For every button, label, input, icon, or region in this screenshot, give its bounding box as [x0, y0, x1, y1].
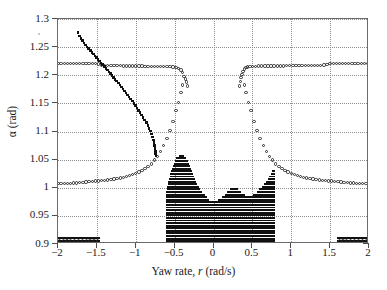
marker-square — [359, 237, 361, 239]
marker-open-circle — [94, 62, 97, 65]
marker-square — [257, 235, 259, 237]
marker-square — [220, 204, 222, 206]
marker-square — [185, 235, 187, 237]
marker-square — [366, 240, 368, 242]
marker-square — [207, 214, 209, 216]
marker-square — [199, 240, 201, 242]
gridline-vertical — [291, 19, 292, 242]
marker-square — [80, 240, 82, 242]
marker-square — [268, 204, 270, 206]
marker-square — [234, 209, 236, 211]
marker-square — [168, 191, 170, 193]
marker-square — [224, 238, 226, 240]
marker-square — [187, 181, 189, 183]
marker-square — [229, 220, 231, 222]
marker-open-circle — [341, 62, 344, 65]
marker-square — [220, 214, 222, 216]
marker-square — [191, 176, 193, 178]
marker-square — [188, 183, 190, 185]
marker-square — [78, 240, 80, 242]
marker-square — [257, 214, 259, 216]
marker-square — [209, 230, 211, 232]
marker-square — [185, 168, 187, 170]
marker-square — [180, 207, 182, 209]
marker-square — [218, 225, 220, 227]
marker-open-circle — [310, 64, 313, 67]
marker-square — [259, 209, 261, 211]
marker-square — [234, 220, 236, 222]
marker-square — [187, 173, 189, 175]
marker-square — [248, 214, 250, 216]
marker-square — [273, 188, 275, 190]
marker-square — [180, 170, 182, 172]
marker-square — [222, 217, 224, 219]
marker-square — [258, 204, 260, 206]
marker-square — [57, 242, 59, 243]
marker-square — [96, 237, 98, 239]
marker-square — [175, 196, 177, 198]
marker-open-circle — [285, 64, 288, 67]
marker-open-circle — [325, 63, 328, 66]
marker-square — [197, 186, 199, 188]
marker-square — [271, 240, 273, 242]
marker-square — [356, 240, 358, 242]
marker-square — [189, 204, 191, 206]
marker-square — [227, 209, 229, 211]
marker-square — [194, 201, 196, 203]
marker-square — [181, 168, 183, 170]
marker-square — [207, 201, 209, 203]
marker-square — [272, 217, 274, 219]
marker-square — [183, 209, 185, 211]
marker-square — [265, 186, 267, 188]
marker-square — [225, 217, 227, 219]
marker-square — [222, 201, 224, 203]
marker-square — [175, 230, 177, 232]
marker-square — [251, 238, 253, 240]
marker-square — [273, 181, 275, 183]
marker-square — [241, 238, 243, 240]
marker-square — [262, 199, 264, 201]
marker-square — [186, 204, 188, 206]
marker-square — [168, 230, 170, 232]
marker-square — [183, 220, 185, 222]
marker-open-circle — [165, 137, 168, 140]
marker-square — [186, 194, 188, 196]
marker-square — [231, 191, 233, 193]
marker-square — [192, 188, 194, 190]
marker-square — [219, 204, 221, 206]
marker-square — [168, 199, 170, 201]
marker-square — [183, 163, 185, 165]
marker-square — [80, 242, 82, 243]
marker-open-circle — [346, 181, 349, 184]
marker-square — [183, 222, 185, 224]
marker-square — [203, 212, 205, 214]
marker-square — [235, 214, 237, 216]
marker-square — [173, 240, 175, 242]
marker-square — [272, 214, 274, 216]
marker-square — [250, 201, 252, 203]
marker-square — [220, 212, 222, 214]
marker-square — [257, 209, 259, 211]
marker-square — [76, 237, 78, 239]
marker-square — [256, 222, 258, 224]
marker-square — [205, 196, 207, 198]
marker-square — [230, 191, 232, 193]
marker-square — [175, 235, 177, 237]
marker-square — [241, 196, 243, 198]
marker-square — [351, 242, 353, 243]
marker-square — [230, 207, 232, 209]
marker-square — [243, 220, 245, 222]
marker-square — [193, 217, 195, 219]
marker-square — [241, 240, 243, 242]
marker-square — [273, 209, 275, 211]
marker-square — [189, 225, 191, 227]
marker-square — [267, 183, 269, 185]
marker-square — [66, 242, 68, 243]
marker-square — [179, 157, 181, 159]
marker-square — [267, 230, 269, 232]
marker-square — [214, 201, 216, 203]
marker-square — [202, 212, 204, 214]
marker-square — [181, 186, 183, 188]
marker-square — [243, 230, 245, 232]
marker-open-circle — [182, 75, 185, 78]
